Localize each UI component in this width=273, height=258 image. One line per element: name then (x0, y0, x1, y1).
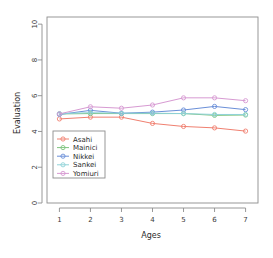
y-tick-label: 10 (31, 20, 39, 29)
legend-label-yomiuri: Yomiuri (72, 170, 99, 178)
y-axis-title: Evaluation (13, 92, 22, 134)
line-chart: 0246810 1234567 AsahiMainiciNikkeiSankei… (0, 0, 273, 258)
x-tick-label: 7 (243, 216, 247, 224)
y-tick-label: 4 (31, 129, 39, 134)
x-tick-label: 1 (57, 216, 61, 224)
y-tick-label: 2 (31, 165, 39, 169)
legend-label-asahi: Asahi (73, 136, 92, 144)
x-tick-label: 3 (119, 216, 123, 224)
y-axis: 0246810 (31, 20, 42, 206)
chart-legend: AsahiMainiciNikkeiSankeiYomiuri (53, 131, 105, 178)
y-tick-label: 6 (31, 93, 39, 98)
legend-label-sankei: Sankei (73, 161, 96, 169)
x-tick-label: 6 (212, 216, 217, 224)
chart-container: 0246810 1234567 AsahiMainiciNikkeiSankei… (0, 0, 273, 258)
legend-label-mainici: Mainici (73, 144, 98, 152)
x-tick-label: 5 (181, 216, 185, 224)
y-tick-label: 0 (31, 201, 39, 205)
series-layer (57, 96, 247, 133)
legend-label-nikkei: Nikkei (73, 153, 94, 161)
series-line-asahi (59, 117, 245, 131)
x-axis: 1234567 (57, 208, 248, 224)
x-axis-title: Ages (141, 231, 161, 240)
x-tick-label: 2 (88, 216, 92, 224)
x-tick-label: 4 (150, 216, 155, 224)
y-tick-label: 8 (31, 58, 39, 62)
